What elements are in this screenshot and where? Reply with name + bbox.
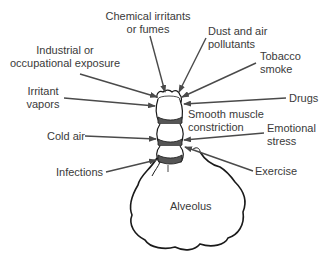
arrow-chemical bbox=[150, 36, 165, 92]
arrow-drugs bbox=[184, 98, 286, 104]
diagram-canvas: Chemical irritants or fumes Dust and air… bbox=[0, 0, 326, 263]
label-alveolus: Alveolus bbox=[170, 200, 212, 213]
label-industrial-exposure: Industrial or occupational exposure bbox=[10, 44, 120, 69]
label-dust-pollutants: Dust and air pollutants bbox=[208, 25, 267, 50]
arrow-irritant bbox=[64, 98, 155, 106]
label-irritant-vapors: Irritant vapors bbox=[22, 85, 64, 110]
arrow-emotional bbox=[184, 133, 264, 140]
bronchiole-icon bbox=[152, 90, 183, 176]
arrow-dust bbox=[179, 38, 206, 92]
arrow-industrial bbox=[80, 74, 157, 97]
label-chemical-irritants: Chemical irritants or fumes bbox=[104, 10, 192, 35]
label-tobacco-smoke: Tobacco smoke bbox=[260, 50, 301, 75]
label-drugs: Drugs bbox=[289, 92, 318, 105]
label-infections: Infections bbox=[56, 166, 103, 179]
label-smooth-muscle-constriction: Smooth muscle constriction bbox=[188, 108, 264, 133]
label-emotional-stress: Emotional stress bbox=[267, 122, 316, 147]
label-cold-air: Cold air bbox=[47, 130, 85, 143]
arrow-cold bbox=[85, 136, 156, 139]
arrow-tobacco bbox=[182, 63, 256, 97]
label-exercise: Exercise bbox=[255, 165, 297, 178]
